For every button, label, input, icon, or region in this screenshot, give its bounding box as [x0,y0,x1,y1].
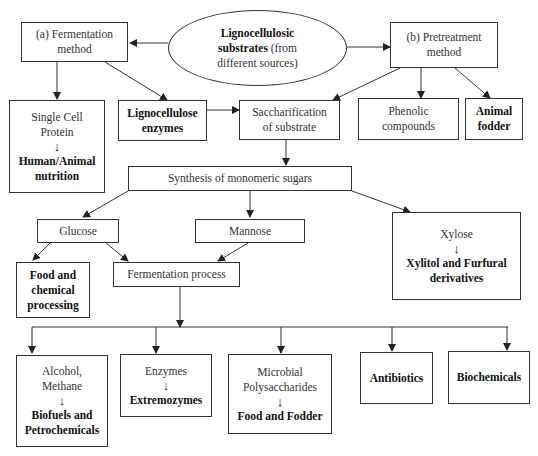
enzymes-node-label: Enzymes [145,364,187,379]
down-arrow-icon: ↓ [163,379,170,393]
pretreatment-method-node: (b) Pretreatment method [390,22,498,68]
phenolic-label: Phenolic [388,104,428,119]
antibiotics-node: Antibiotics [360,352,433,404]
fermentation-method-label-2: method [57,42,92,57]
food-chemical-label: Food and [30,268,76,283]
polysaccharides-label: Microbial [257,365,302,380]
food-chemical-label-2: chemical [31,283,74,298]
source-title: Lignocellulosic [221,27,294,39]
fermentation-method-node: (a) Fermentation method [21,22,128,62]
fermentation-process-label: Fermentation process [127,267,226,282]
alcohol-label: Alcohol, [42,364,82,379]
alcohol-product: Biofuels and [31,408,92,423]
biochemicals-node: Biochemicals [448,351,530,404]
scp-product-2: nutrition [35,169,79,184]
alcohol-methane-node: Alcohol, Methane ↓ Biofuels and Petroche… [16,355,108,447]
phenolic-compounds-node: Phenolic compounds [358,98,459,140]
scp-label: Single Cell [31,110,82,125]
saccharification-label: Saccharification [252,105,327,120]
source-subtitle-2: different sources) [217,56,298,71]
microbial-polysaccharides-node: Microbial Polysaccharides ↓ Food and Fod… [228,354,332,434]
food-chemical-processing-node: Food and chemical processing [16,262,90,318]
monomeric-sugars-node: Synthesis of monomeric sugars [128,166,352,191]
pretreatment-method-label: (b) Pretreatment [406,30,481,45]
down-arrow-icon: ↓ [453,242,460,256]
enzymes-label: Lignocellulose [127,106,197,121]
monomeric-sugars-label: Synthesis of monomeric sugars [168,171,312,186]
mannose-node: Mannose [195,219,305,243]
animal-fodder-label-2: fodder [478,119,511,134]
polysaccharides-label-2: Polysaccharides [243,380,317,395]
animal-fodder-node: Animal fodder [465,98,523,140]
enzymes-node: Enzymes ↓ Extremozymes [120,354,212,417]
food-chemical-label-3: processing [27,298,79,313]
lignocellulose-enzymes-node: Lignocellulose enzymes [118,100,207,141]
down-arrow-icon: ↓ [277,395,284,409]
polysaccharides-product: Food and Fodder [238,409,323,424]
down-arrow-icon: ↓ [59,394,66,408]
phenolic-label-2: compounds [382,119,435,134]
scp-label-2: Protein [40,125,73,140]
saccharification-node: Saccharification of substrate [239,100,340,140]
alcohol-label-2: Methane [42,379,82,394]
saccharification-label-2: of substrate [263,120,316,135]
fermentation-process-node: Fermentation process [113,262,240,287]
scp-product: Human/Animal [19,154,96,169]
xylose-product-2: derivatives [430,271,484,286]
glucose-node: Glucose [37,219,119,243]
enzymes-product: Extremozymes [130,393,203,408]
lignocellulosic-substrates-node: Lignocellulosic substrates (from differe… [168,10,347,86]
enzymes-label-2: enzymes [142,121,184,136]
animal-fodder-label: Animal [476,104,512,119]
biochemicals-label: Biochemicals [457,370,522,385]
glucose-label: Glucose [59,224,97,239]
source-subtitle: (from [268,42,297,54]
pretreatment-method-label-2: method [427,45,462,60]
down-arrow-icon: ↓ [54,140,61,154]
xylose-product: Xylitol and Furfural [406,256,506,271]
mannose-label: Mannose [229,224,271,239]
antibiotics-label: Antibiotics [370,371,424,386]
alcohol-product-2: Petrochemicals [25,423,100,438]
xylose-label: Xylose [440,227,473,242]
fermentation-method-label: (a) Fermentation [36,27,113,42]
xylose-node: Xylose ↓ Xylitol and Furfural derivative… [392,212,521,300]
source-title-2: substrates [218,42,268,54]
flow-diagram: Lignocellulosic substrates (from differe… [0,0,538,456]
single-cell-protein-node: Single Cell Protein ↓ Human/Animal nutri… [9,100,105,193]
